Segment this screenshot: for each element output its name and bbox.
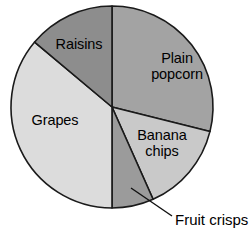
slice-label-plain-popcorn: Plain popcorn [141,51,213,82]
slice-label-banana-chips: Banana chips [131,128,193,159]
pie-chart: Plain popcorn Banana chips Grapes Raisin… [0,0,249,236]
slice-label-fruit-crisps: Fruit crisps [175,212,248,228]
pie-slices-group [11,6,213,208]
slice-label-raisins: Raisins [48,37,110,53]
slice-label-grapes: Grapes [22,113,88,129]
